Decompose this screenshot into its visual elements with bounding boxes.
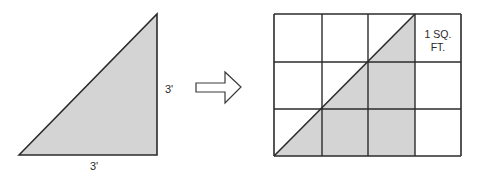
- cell-label-line1: 1 SQ.: [425, 28, 452, 40]
- horizontal-side-label: 3': [90, 160, 98, 172]
- right-triangle: [19, 14, 157, 155]
- vertical-side-label: 3': [165, 83, 173, 95]
- right-arrow-icon: [196, 72, 241, 103]
- cell-label-line2: FT.: [431, 41, 446, 53]
- diagram-canvas: 3' 3' 1 SQ. FT.: [0, 0, 480, 182]
